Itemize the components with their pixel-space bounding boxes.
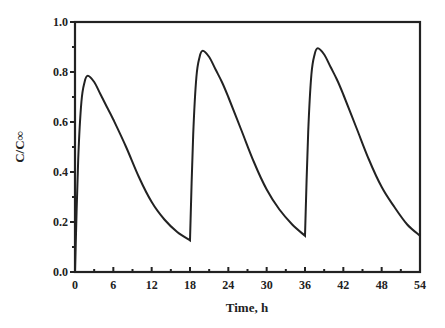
x-tick-label: 18 [184,278,196,292]
x-tick-label: 54 [414,278,426,292]
chart: 061218243036424854 0.00.20.40.60.81.0 Ti… [0,0,445,328]
y-tick-label: 0.8 [53,65,68,79]
x-tick-label: 36 [299,278,311,292]
y-ticks: 0.00.20.40.60.81.0 [53,15,75,279]
x-tick-label: 24 [222,278,234,292]
x-tick-label: 48 [376,278,388,292]
x-tick-label: 30 [261,278,273,292]
y-tick-label: 1.0 [53,15,68,29]
x-tick-label: 0 [72,278,78,292]
y-tick-label: 0.6 [53,115,68,129]
y-tick-label: 0.4 [53,165,68,179]
y-tick-label: 0.0 [53,265,68,279]
x-ticks: 061218243036424854 [72,267,426,292]
x-tick-label: 6 [110,278,116,292]
series-line-concentration [75,48,420,272]
y-axis-title: C/C∞ [12,131,27,163]
x-tick-label: 42 [337,278,349,292]
x-tick-label: 12 [146,278,158,292]
x-axis-title: Time, h [226,300,269,315]
y-tick-label: 0.2 [53,215,68,229]
